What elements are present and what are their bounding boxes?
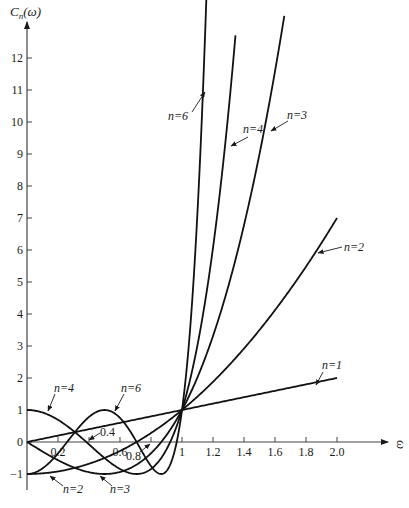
y-tick-label: −1 bbox=[10, 467, 23, 481]
pointer-n3-lower bbox=[100, 476, 112, 486]
y-tick-label: 11 bbox=[11, 83, 23, 97]
label-n3-lower: n=3 bbox=[110, 482, 130, 496]
y-tick-label: 6 bbox=[17, 243, 23, 257]
label-n6-lower: n=6 bbox=[121, 381, 141, 395]
pointer-n4-lower bbox=[48, 394, 55, 411]
y-tick-label: 4 bbox=[17, 307, 23, 321]
curve-n6 bbox=[27, 0, 209, 474]
x-ticks: 0.20.611.21.41.61.82.0 bbox=[51, 437, 345, 459]
x-tick-label: 1.2 bbox=[206, 445, 221, 459]
chebyshev-chart: Cn(ω) ω −10123456789101112 0.20.611.21.4… bbox=[0, 0, 409, 508]
y-axis-title: Cn(ω) bbox=[10, 4, 41, 21]
y-tick-label: 2 bbox=[17, 371, 23, 385]
label-n2-right: n=2 bbox=[344, 240, 364, 254]
y-tick-label: 5 bbox=[17, 275, 23, 289]
y-tick-label: 0 bbox=[17, 435, 23, 449]
y-ticks: −10123456789101112 bbox=[10, 51, 32, 481]
label-n6-upper: n=6 bbox=[168, 109, 188, 123]
label-tick-0-8: 0.8 bbox=[126, 449, 141, 463]
y-tick-label: 3 bbox=[17, 339, 23, 353]
y-tick-label: 1 bbox=[17, 403, 23, 417]
label-n2-lower: n=2 bbox=[63, 482, 83, 496]
pointer-tick-0-4 bbox=[89, 433, 100, 440]
x-tick-label: 1.8 bbox=[299, 445, 314, 459]
pointer-n1 bbox=[316, 372, 323, 385]
pointer-n2-lower bbox=[50, 476, 63, 486]
curve-n2 bbox=[27, 218, 337, 474]
y-axis-title-arg: (ω) bbox=[23, 4, 41, 19]
curve-n4 bbox=[27, 35, 235, 474]
curves bbox=[27, 0, 337, 474]
label-n3-upper: n=3 bbox=[287, 108, 307, 122]
x-tick-label: 1.4 bbox=[237, 445, 252, 459]
label-tick-0-4: 0.4 bbox=[100, 425, 115, 439]
pointer-tick-0-8 bbox=[140, 444, 150, 452]
y-tick-label: 8 bbox=[17, 179, 23, 193]
pointer-n4-upper bbox=[231, 137, 248, 146]
x-tick-label: 1 bbox=[179, 445, 185, 459]
y-tick-label: 10 bbox=[11, 115, 23, 129]
label-n4-lower: n=4 bbox=[54, 381, 74, 395]
curve-n3 bbox=[27, 16, 284, 474]
x-tick-label: 2.0 bbox=[330, 445, 345, 459]
y-tick-label: 9 bbox=[17, 147, 23, 161]
label-n1: n=1 bbox=[322, 358, 342, 372]
pointer-n6-lower bbox=[115, 394, 124, 411]
y-tick-label: 7 bbox=[17, 211, 23, 225]
label-n4-upper: n=4 bbox=[243, 122, 263, 136]
x-tick-label: 1.6 bbox=[268, 445, 283, 459]
y-axis-title-main: C bbox=[10, 4, 19, 19]
x-axis-title: ω bbox=[394, 440, 409, 449]
pointer-n3-upper bbox=[271, 121, 288, 131]
pointer-n2-right bbox=[318, 247, 342, 253]
y-tick-label: 12 bbox=[11, 51, 23, 65]
